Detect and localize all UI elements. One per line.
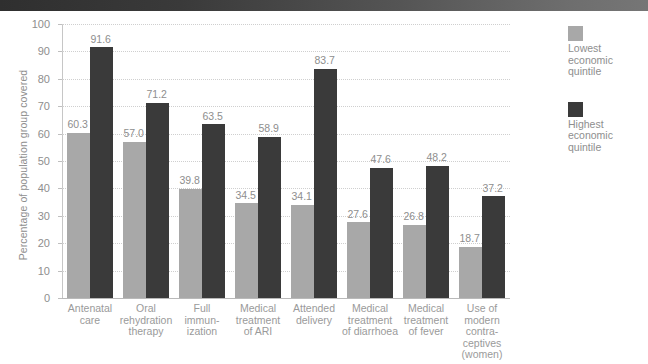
y-tick-mark-0 [58,298,62,299]
bar-highest-quintile[interactable] [202,124,225,298]
legend-label-lowest: Lowesteconomicquintile [568,43,648,78]
bar-value-label: 48.2 [427,152,447,163]
bar-value-label: 63.5 [203,111,223,122]
legend-label-line: quintile [568,66,648,78]
legend-label-line: quintile [568,142,648,154]
y-tick-label-20: 20 [38,238,50,249]
y-tick-label-0: 0 [44,293,50,304]
bar-group: 18.737.2 [454,24,510,298]
legend-swatch-lowest [568,26,583,41]
y-tick-label-70: 70 [38,101,50,112]
x-category-label-line: (women) [448,349,516,361]
y-tick-label-90: 90 [38,46,50,57]
bar-group: 26.848.2 [398,24,454,298]
bar-value-label: 26.8 [404,211,424,222]
y-tick-label-30: 30 [38,210,50,221]
x-category-label: Use ofmoderncontra-ceptives(women) [448,303,516,361]
bar-lowest-quintile[interactable] [123,142,146,298]
y-tick-label-40: 40 [38,183,50,194]
bar-value-label: 91.6 [91,34,111,45]
bar-lowest-quintile[interactable] [291,205,314,298]
bar-value-label: 57.0 [124,128,144,139]
bar-lowest-quintile[interactable] [235,203,258,298]
bar-group: 34.183.7 [286,24,342,298]
bar-chart: Percentage of population group covered 0… [0,11,648,364]
bar-highest-quintile[interactable] [90,47,113,298]
bar-highest-quintile[interactable] [370,168,393,298]
bar-value-label: 34.1 [292,191,312,202]
y-tick-label-60: 60 [38,128,50,139]
bar-lowest-quintile[interactable] [459,247,482,298]
bar-value-label: 71.2 [147,89,167,100]
bar-value-label: 34.5 [236,190,256,201]
bar-group: 34.558.9 [230,24,286,298]
bar-lowest-quintile[interactable] [67,133,90,298]
y-tick-label-10: 10 [38,265,50,276]
legend-label-highest: Highesteconomicquintile [568,119,648,154]
bar-highest-quintile[interactable] [146,103,169,298]
x-category-label-line: of ARI [224,326,292,338]
bar-value-label: 37.2 [483,183,503,194]
bar-highest-quintile[interactable] [482,196,505,298]
bar-highest-quintile[interactable] [258,137,281,298]
bar-value-label: 58.9 [259,123,279,134]
top-banner [0,0,648,11]
bar-value-label: 18.7 [460,233,480,244]
bar-group: 27.647.6 [342,24,398,298]
x-category-label-line: Use of [448,303,516,315]
bar-value-label: 83.7 [315,55,335,66]
bar-lowest-quintile[interactable] [403,225,426,298]
bar-highest-quintile[interactable] [426,166,449,298]
plot-area: 60.391.657.071.239.863.534.558.934.183.7… [62,24,510,298]
y-tick-label-100: 100 [32,19,50,30]
y-tick-label-50: 50 [38,156,50,167]
bar-group: 57.071.2 [118,24,174,298]
y-axis-tick-labels: 0102030405060708090100 [0,24,58,298]
x-axis-category-labels: AntenatalcareOralrehydrationtherapyFulli… [62,303,510,364]
y-tick-label-80: 80 [38,73,50,84]
bar-group: 60.391.6 [62,24,118,298]
legend-label-line: Lowest [568,43,648,55]
legend-swatch-highest [568,102,583,117]
legend-label-line: economic [568,130,648,142]
bar-value-label: 39.8 [180,175,200,186]
bar-lowest-quintile[interactable] [179,189,202,298]
legend-item-highest[interactable]: Highesteconomicquintile [568,101,648,154]
bar-group: 39.863.5 [174,24,230,298]
gridline-0 [62,298,510,299]
bar-highest-quintile[interactable] [314,69,337,298]
bar-value-label: 47.6 [371,154,391,165]
legend: LowesteconomicquintileHighesteconomicqui… [568,25,648,176]
legend-item-lowest[interactable]: Lowesteconomicquintile [568,25,648,78]
bar-value-label: 27.6 [348,209,368,220]
x-category-label-line: contra- [448,326,516,338]
bar-value-label: 60.3 [68,119,88,130]
bar-lowest-quintile[interactable] [347,222,370,298]
